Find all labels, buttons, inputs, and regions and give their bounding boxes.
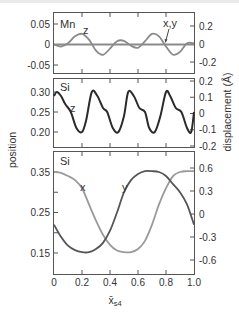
x-tick-label: 0.8	[159, 277, 173, 288]
y-right-tick-label: 0.3	[199, 186, 213, 197]
y-right-tick-label: -0.3	[199, 232, 217, 243]
top-panel-element-label: Mn	[60, 18, 75, 30]
y-right-tick-label: 0.6	[199, 163, 213, 174]
x-tick-label: 0	[51, 277, 57, 288]
y-axis-right-title: displacement (Å)	[221, 73, 233, 152]
y-right-tick-label: -0.6	[199, 255, 217, 266]
y-left-tick-label: 0.35	[31, 167, 51, 178]
y-left-tick-label: 0.20	[31, 127, 51, 138]
bottom-panel-element-label: Si	[60, 155, 70, 167]
chart-figure: 0.050-0.050.20-0.20.300.250.200.20.10-0.…	[0, 0, 239, 317]
y-left-tick-label: -0.05	[27, 60, 50, 71]
x-tick-label: 0.6	[131, 277, 145, 288]
x-tick-label: 0.4	[103, 277, 117, 288]
y-right-tick-label: 0	[199, 209, 205, 220]
y-right-tick-label: -0.2	[199, 57, 217, 68]
xy-arrowhead-icon	[165, 39, 168, 43]
y-right-tick-label: 0	[199, 108, 205, 119]
x-axis-title-subscript: s4	[114, 299, 122, 308]
y-right-tick-label: 0.1	[199, 92, 213, 103]
data-curves	[54, 34, 194, 253]
y-right-tick-label: 0.2	[199, 21, 213, 32]
y-right-tick-label: 0.2	[199, 76, 213, 87]
y-right-tick-label: -0.2	[199, 141, 217, 152]
y-axis-left-title: position	[6, 132, 18, 168]
y-left-tick-label: 0.05	[31, 19, 51, 30]
bottom-panel-frame	[54, 152, 195, 275]
bottom-panel-y-label: y	[122, 181, 128, 193]
x-tick-label: 0.2	[75, 277, 89, 288]
middle-panel-element-label: Si	[60, 81, 70, 93]
middle-panel-z-label: z	[70, 102, 76, 114]
y-left-tick-label: 0.25	[31, 207, 51, 218]
top-panel-z-label: z	[83, 24, 89, 36]
axis-ticks	[53, 13, 195, 274]
y-right-tick-label: -0.1	[199, 124, 217, 135]
bottom-panel-x-label: x	[80, 181, 86, 193]
x-axis-title: x̄s4	[108, 294, 121, 308]
axis-tick-labels: 0.050-0.050.20-0.20.300.250.200.20.10-0.…	[27, 19, 216, 289]
top-panel-xy-label: x,y	[163, 17, 178, 29]
y-left-tick-label: 0	[44, 39, 50, 50]
x-tick-label: 1.0	[187, 277, 201, 288]
y-left-tick-label: 0.15	[31, 248, 51, 259]
y-right-tick-label: 0	[199, 39, 205, 50]
y-left-tick-label: 0.30	[31, 87, 51, 98]
y-left-tick-label: 0.25	[31, 107, 51, 118]
xy-pointer-arrow	[166, 29, 169, 40]
